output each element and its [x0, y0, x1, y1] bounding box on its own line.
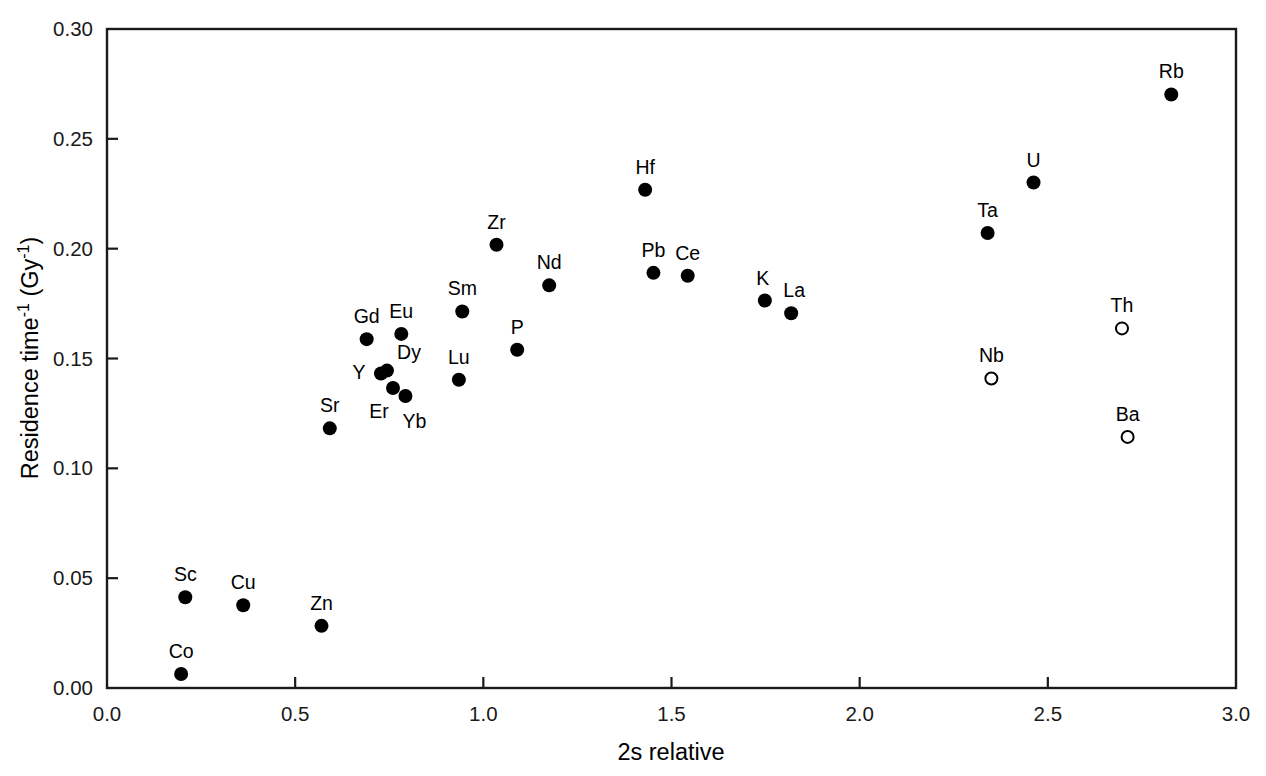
data-point-label-zr: Zr [487, 211, 506, 233]
y-tick-label: 0.20 [53, 237, 93, 260]
x-tick-label: 1.5 [657, 702, 686, 725]
data-point-p[interactable] [510, 343, 524, 357]
data-point-label-hf: Hf [635, 156, 655, 178]
x-tick-label: 0.0 [93, 702, 122, 725]
data-point-label-sr: Sr [320, 394, 340, 416]
scatter-plot-figure: 0.000.050.100.150.200.250.30 0.00.51.01.… [0, 0, 1266, 776]
x-tick-label: 3.0 [1222, 702, 1251, 725]
y-tick-label: 0.10 [53, 456, 93, 479]
data-point-eu[interactable] [394, 327, 408, 341]
data-point-zr[interactable] [490, 238, 504, 252]
data-point-label-ba: Ba [1116, 403, 1140, 425]
data-point-label-pb: Pb [642, 239, 666, 261]
data-point-er[interactable] [386, 381, 400, 395]
y-axis-ticks [107, 139, 118, 578]
data-point-label-ta: Ta [977, 199, 998, 221]
data-point-label-co: Co [169, 640, 194, 662]
x-tick-label: 0.5 [281, 702, 310, 725]
y-axis-title-exp1: -1 [15, 303, 32, 317]
x-axis-ticks [295, 677, 1048, 688]
y-axis-title-unit-open: (Gy [17, 258, 43, 303]
data-point-dy[interactable] [380, 364, 394, 378]
plot-frame [107, 29, 1236, 688]
y-axis-title-unit-close: ) [17, 237, 43, 245]
data-point-rb[interactable] [1164, 87, 1178, 101]
data-point-gd[interactable] [360, 332, 374, 346]
data-point-label-la: La [783, 279, 805, 301]
data-point-co[interactable] [174, 667, 188, 681]
data-point-sc[interactable] [178, 590, 192, 604]
data-point-ta[interactable] [981, 226, 995, 240]
data-point-labels: CoScCuZnSrGdYDyErEuYbLuSmZrPNdHfPbCeKLaT… [169, 60, 1184, 661]
data-point-label-th: Th [1111, 294, 1134, 316]
y-axis-tick-labels: 0.000.050.100.150.200.250.30 [53, 17, 93, 699]
data-point-ce[interactable] [681, 269, 695, 283]
data-point-la[interactable] [784, 306, 798, 320]
data-point-label-sm: Sm [448, 277, 477, 299]
data-point-label-zn: Zn [310, 592, 333, 614]
data-point-u[interactable] [1027, 176, 1041, 190]
data-point-label-p: P [511, 316, 524, 338]
data-point-label-gd: Gd [354, 305, 380, 327]
data-point-k[interactable] [758, 294, 772, 308]
data-point-label-dy: Dy [397, 341, 421, 363]
chart-canvas: 0.000.050.100.150.200.250.30 0.00.51.01.… [0, 0, 1266, 776]
plot-frame-rect [107, 29, 1236, 688]
y-axis-title-exp2: -1 [15, 244, 32, 258]
data-point-sm[interactable] [455, 304, 469, 318]
data-point-label-sc: Sc [174, 563, 197, 585]
y-tick-label: 0.30 [53, 17, 93, 40]
data-point-label-k: K [756, 267, 769, 289]
data-point-label-eu: Eu [389, 300, 413, 322]
data-point-label-yb: Yb [403, 410, 427, 432]
data-point-label-lu: Lu [448, 346, 470, 368]
x-axis-tick-labels: 0.00.51.01.52.02.53.0 [93, 702, 1251, 725]
y-tick-label: 0.00 [53, 676, 93, 699]
y-tick-label: 0.25 [53, 127, 93, 150]
data-point-label-nd: Nd [537, 251, 562, 273]
x-axis-title: 2s relative [617, 739, 724, 765]
y-tick-label: 0.05 [53, 566, 93, 589]
data-point-th[interactable] [1116, 322, 1128, 334]
data-point-label-y: Y [352, 361, 365, 383]
data-point-label-cu: Cu [231, 571, 256, 593]
data-point-zn[interactable] [315, 619, 329, 633]
data-point-cu[interactable] [236, 598, 250, 612]
data-point-label-nb: Nb [979, 344, 1004, 366]
data-point-sr[interactable] [323, 421, 337, 435]
data-point-nb[interactable] [985, 372, 997, 384]
data-point-lu[interactable] [452, 373, 466, 387]
data-point-nd[interactable] [542, 278, 556, 292]
x-tick-label: 1.0 [469, 702, 498, 725]
data-point-pb[interactable] [646, 266, 660, 280]
data-point-label-rb: Rb [1159, 60, 1184, 82]
y-axis-title-main: Residence time [17, 317, 43, 479]
data-point-hf[interactable] [638, 183, 652, 197]
data-point-yb[interactable] [398, 389, 412, 403]
y-axis-title: Residence time-1 (Gy-1) [15, 237, 43, 480]
x-tick-label: 2.5 [1034, 702, 1063, 725]
data-point-label-ce: Ce [675, 242, 700, 264]
x-tick-label: 2.0 [845, 702, 874, 725]
data-point-label-er: Er [369, 400, 389, 422]
svg-text:Residence time-1 (Gy-1): Residence time-1 (Gy-1) [15, 237, 43, 480]
data-point-label-u: U [1026, 149, 1040, 171]
y-tick-label: 0.15 [53, 347, 93, 370]
data-point-ba[interactable] [1122, 431, 1134, 443]
